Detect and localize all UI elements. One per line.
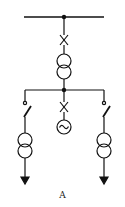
right-transformer-icon <box>97 133 111 158</box>
incoming-breaker-icon <box>60 35 68 45</box>
single-line-diagram <box>0 0 125 207</box>
left-disconnector-icon <box>24 106 31 117</box>
generator-icon <box>57 120 71 134</box>
left-transformer-icon <box>18 133 32 158</box>
diagram-caption: A <box>0 190 125 200</box>
right-load-arrow-icon <box>100 177 108 184</box>
main-transformer-icon <box>57 54 71 79</box>
right-terminal-icon <box>102 101 105 104</box>
left-load-arrow-icon <box>21 177 29 184</box>
right-disconnector-icon <box>103 106 110 117</box>
left-terminal-icon <box>23 101 26 104</box>
center-breaker-icon <box>60 102 68 112</box>
